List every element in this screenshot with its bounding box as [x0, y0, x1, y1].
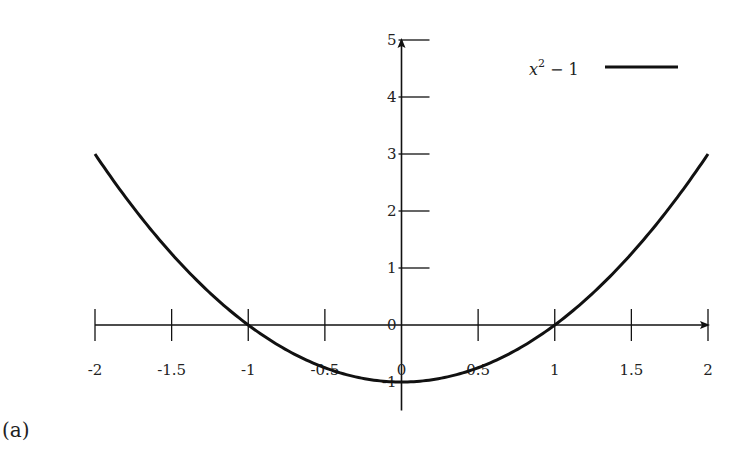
y-tick-label: 0: [387, 316, 397, 334]
y-tick-label: 2: [387, 202, 397, 220]
legend-label: x2 − 1: [529, 57, 579, 79]
x-tick-label: -1.5: [157, 361, 186, 379]
figure-caption: (a): [2, 418, 30, 442]
x-axis-ticks: -2-1.5-1-0.500.511.52: [88, 309, 713, 379]
y-tick-label: 1: [387, 259, 397, 277]
x-tick-label: -1: [241, 361, 256, 379]
y-tick-label: 5: [387, 31, 397, 49]
x-tick-label: -2: [88, 361, 103, 379]
function-plot: -2-1.5-1-0.500.511.52 -1012345 x2 − 1: [0, 0, 751, 465]
x-tick-label: 1: [550, 361, 560, 379]
legend: x2 − 1: [529, 57, 678, 79]
axes: [95, 40, 708, 411]
x-tick-label: 0: [397, 361, 407, 379]
x-tick-label: 2: [703, 361, 713, 379]
x-tick-label: 1.5: [619, 361, 643, 379]
y-tick-label: 3: [387, 145, 397, 163]
y-axis-ticks: -1012345: [382, 31, 430, 391]
y-tick-label: 4: [387, 88, 397, 106]
